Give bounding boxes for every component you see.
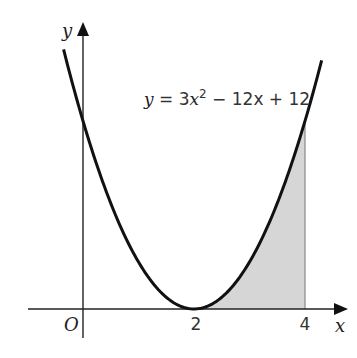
equation-exponent: 2 [199,87,207,101]
x-axis-label: x [335,315,345,336]
x-tick-label-2: 2 [191,314,202,334]
equation-lhs: y [143,89,154,109]
y-axis-label: y [61,20,73,41]
shaded-area [194,121,305,309]
equation-eq: = 3 [154,89,190,109]
x-axis-arrow-icon [334,303,348,315]
equation-rest: − 12x + 12 [207,89,310,109]
equation-var: x [189,89,199,109]
y-axis-arrow-icon [77,22,89,36]
origin-label: O [64,314,79,335]
parabola-figure: y x O 2 4 y = 3x2 − 12x + 12 [0,0,357,358]
x-tick-label-4: 4 [300,314,311,334]
equation-label: y = 3x2 − 12x + 12 [143,87,310,109]
